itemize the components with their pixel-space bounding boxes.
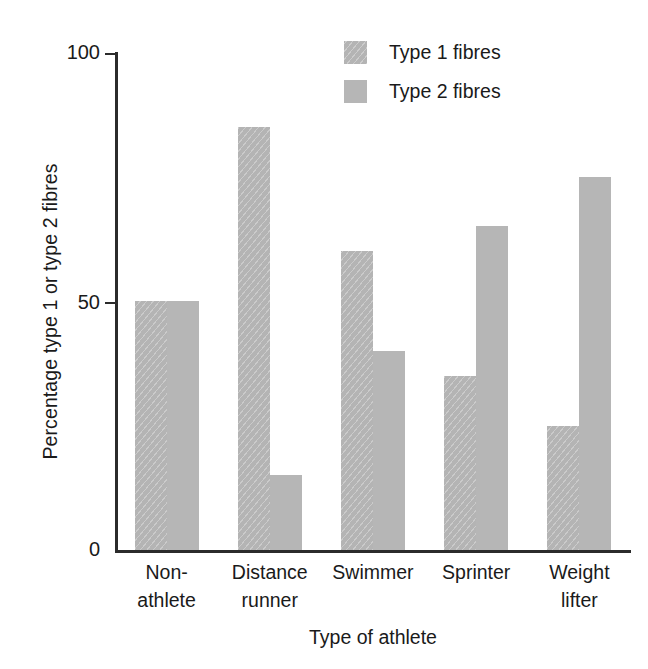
- bar-distance-runner-type-1: [238, 127, 270, 550]
- bar-swimmer-type-1: [341, 251, 373, 550]
- legend-swatch-type-2-icon: [344, 80, 367, 103]
- x-axis-label-line-1: Non-: [115, 558, 218, 586]
- x-axis-title: Type of athlete: [115, 626, 631, 649]
- x-axis-label-swimmer: Swimmer: [321, 558, 424, 586]
- bar-chart-figure: Percentage type 1 or type 2 fibres 100 5…: [0, 0, 648, 669]
- bar-sprinter-type-2: [476, 226, 508, 550]
- x-axis-label-sprinter: Sprinter: [425, 558, 528, 586]
- bar-non-athlete-type-2: [167, 301, 199, 550]
- bar-distance-runner-type-2: [270, 475, 302, 550]
- x-axis-label-line-2: lifter: [528, 586, 631, 614]
- x-axis-label-line-1: Swimmer: [321, 558, 424, 586]
- x-axis-label-distance-runner: Distancerunner: [218, 558, 321, 614]
- bar-swimmer-type-2: [373, 351, 405, 550]
- x-axis-label-line-2: athlete: [115, 586, 218, 614]
- x-axis-label-line-2: runner: [218, 586, 321, 614]
- bar-weight-lifter-type-2: [579, 177, 611, 551]
- bar-weight-lifter-type-1: [547, 426, 579, 551]
- legend-label-type-1: Type 1 fibres: [389, 41, 501, 64]
- x-axis-label-weight-lifter: Weightlifter: [528, 558, 631, 614]
- legend-item-type-1: Type 1 fibres: [344, 33, 501, 72]
- x-axis-category-labels: Non-athleteDistancerunnerSwimmerSprinter…: [115, 558, 631, 628]
- legend-swatch-type-1-icon: [344, 41, 367, 64]
- legend-label-type-2: Type 2 fibres: [389, 80, 501, 103]
- x-axis-label-line-1: Weight: [528, 558, 631, 586]
- x-axis-label-line-1: Distance: [218, 558, 321, 586]
- bar-non-athlete-type-1: [135, 301, 167, 550]
- chart-legend: Type 1 fibres Type 2 fibres: [344, 33, 501, 111]
- x-axis-label-line-1: Sprinter: [425, 558, 528, 586]
- x-axis-label-non-athlete: Non-athlete: [115, 558, 218, 614]
- bar-sprinter-type-1: [444, 376, 476, 550]
- legend-item-type-2: Type 2 fibres: [344, 72, 501, 111]
